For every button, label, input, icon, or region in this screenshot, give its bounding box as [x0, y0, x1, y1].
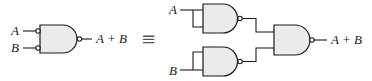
- right-input-a-label: A: [168, 2, 177, 17]
- top-nand-output-wire: [242, 19, 274, 33]
- left-input-a-label: A: [10, 23, 19, 38]
- top-nand-output-bubble: [238, 16, 242, 20]
- output-nand-gate-body: [274, 25, 310, 55]
- top-nand-gate-body: [203, 4, 237, 33]
- left-output-inverter-bubble: [77, 37, 81, 41]
- left-input-b-label: B: [11, 40, 19, 55]
- equivalence-symbol: ≡: [141, 28, 156, 49]
- logic-diagram: A B A + B ≡ A B A + B: [0, 0, 372, 81]
- left-input-a-inverter-bubble: [36, 29, 40, 33]
- bottom-nand-tied-input-wire: [193, 52, 203, 70]
- bottom-nand-gate-body: [203, 47, 238, 76]
- bottom-nand-output-bubble: [238, 59, 242, 63]
- top-nand-tied-input-wire: [193, 10, 203, 27]
- right-circuit-group: A B A + B: [168, 2, 362, 78]
- output-nand-output-bubble: [310, 38, 314, 42]
- right-input-b-label: B: [169, 63, 177, 78]
- left-and-gate-body: [40, 25, 77, 53]
- left-output-label: A + B: [95, 31, 127, 46]
- left-input-b-inverter-bubble: [36, 46, 40, 50]
- left-gate-group: A B A + B: [10, 23, 127, 55]
- right-output-label: A + B: [330, 32, 362, 47]
- bottom-nand-output-wire: [242, 48, 274, 62]
